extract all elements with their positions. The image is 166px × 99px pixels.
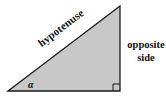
right-triangle-diagram: hypotenuse opposite side α bbox=[0, 0, 166, 99]
angle-alpha-label: α bbox=[28, 80, 34, 90]
opposite-side-label: opposite side bbox=[124, 38, 166, 64]
opposite-label-line2: side bbox=[124, 51, 166, 64]
opposite-label-line1: opposite bbox=[124, 38, 166, 51]
